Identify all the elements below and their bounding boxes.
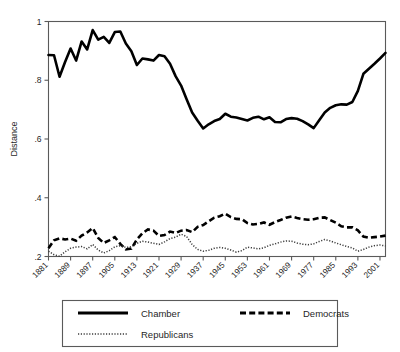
x-tick-label: 1945: [207, 260, 227, 280]
series-group: [49, 30, 386, 256]
x-tick-label: 1913: [119, 260, 139, 280]
x-tick-label: 2001: [362, 260, 382, 280]
distance-line-chart: 1.8.6.4.2 188118891897190519131921192919…: [0, 0, 400, 352]
chart-legend: Chamber Democrats Republicans: [63, 301, 350, 347]
legend-label-democrats: Democrats: [303, 308, 349, 319]
y-tick-label: .8: [34, 75, 41, 85]
y-tick-label: .6: [34, 134, 41, 144]
y-tick-label: .4: [34, 193, 41, 203]
x-tick-label: 1953: [230, 260, 250, 280]
x-tick-label: 1929: [163, 260, 183, 280]
x-tick-label: 1889: [53, 260, 73, 280]
y-axis-ticks: 1.8.6.4.2: [34, 17, 48, 262]
legend-label-chamber: Chamber: [141, 308, 180, 319]
series-line-chamber: [49, 30, 386, 128]
x-tick-label: 1937: [185, 260, 205, 280]
x-tick-label: 1969: [274, 260, 294, 280]
x-tick-label: 1921: [141, 260, 161, 280]
series-line-democrats: [49, 214, 386, 250]
x-tick-label: 1985: [318, 260, 338, 280]
legend-border: [63, 301, 338, 347]
x-tick-label: 1897: [75, 260, 95, 280]
y-tick-label: 1: [37, 17, 42, 27]
legend-label-republicans: Republicans: [141, 329, 194, 340]
chart-figure: 1.8.6.4.2 188118891897190519131921192919…: [0, 0, 400, 352]
y-axis-title: Distance: [9, 121, 19, 156]
x-tick-label: 1993: [340, 260, 360, 280]
x-axis-ticks: 1881188918971905191319211929193719451953…: [31, 257, 382, 280]
y-tick-label: .2: [34, 252, 41, 262]
x-tick-label: 1881: [31, 260, 51, 280]
x-tick-label: 1905: [97, 260, 117, 280]
x-tick-label: 1977: [296, 260, 316, 280]
x-tick-label: 1961: [252, 260, 272, 280]
